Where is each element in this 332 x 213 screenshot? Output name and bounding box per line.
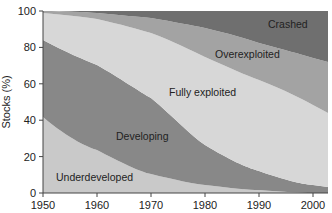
label-developing: Developing [116,130,169,142]
x-ticks [43,193,313,197]
x-tick-1950: 1950 [31,199,55,211]
x-tick-1990: 1990 [247,199,271,211]
label-fully-exploited: Fully exploited [169,86,236,98]
y-tick-60: 60 [24,78,36,90]
y-tick-20: 20 [24,151,36,163]
x-tick-1980: 1980 [193,199,217,211]
y-tick-0: 0 [30,187,36,199]
x-tick-1960: 1960 [85,199,109,211]
plot-area [43,11,328,193]
stacked-area-chart: 0 20 40 60 80 100 1950 1960 1970 1980 19… [0,0,332,213]
y-tick-80: 80 [24,41,36,53]
y-tick-100: 100 [18,5,36,17]
label-underdeveloped: Underdeveloped [56,171,133,183]
label-overexploited: Overexploited [215,48,280,60]
label-crashed: Crashed [268,18,308,30]
x-tick-1970: 1970 [139,199,163,211]
y-tick-40: 40 [24,114,36,126]
y-ticks [39,11,43,193]
x-tick-2000: 2000 [301,199,325,211]
y-axis-label: Stocks (%) [0,75,12,128]
